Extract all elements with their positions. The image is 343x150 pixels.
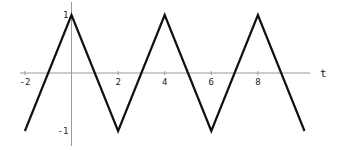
triangle-wave-chart: -224681-1 t — [0, 0, 343, 150]
x-tick-label: 2 — [115, 77, 120, 87]
x-tick-label: 4 — [162, 77, 167, 87]
x-axis-label: t — [320, 67, 327, 80]
x-tick-label: 6 — [209, 77, 214, 87]
y-tick-label: 1 — [63, 10, 68, 20]
x-tick-label: -2 — [19, 77, 30, 87]
y-tick-label: -1 — [58, 126, 69, 136]
x-tick-label: 8 — [255, 77, 260, 87]
